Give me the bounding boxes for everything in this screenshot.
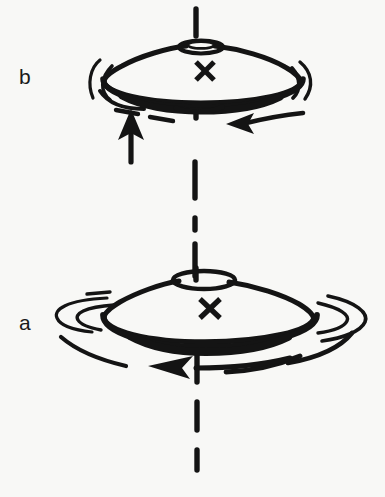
panel-label-a: a xyxy=(19,311,31,334)
leftward-force-arrow-b xyxy=(226,113,303,134)
panel-a: a xyxy=(19,271,366,379)
stray-dash-b xyxy=(150,117,173,121)
panel-b: b xyxy=(19,41,311,163)
center-cross-mark-a xyxy=(200,299,220,318)
figure-container: b xyxy=(0,0,385,497)
panel-label-b: b xyxy=(19,65,31,88)
center-cross-mark-b xyxy=(196,62,214,80)
upward-force-arrow-b xyxy=(118,109,144,162)
spinning-tops-diagram: b xyxy=(0,0,385,497)
